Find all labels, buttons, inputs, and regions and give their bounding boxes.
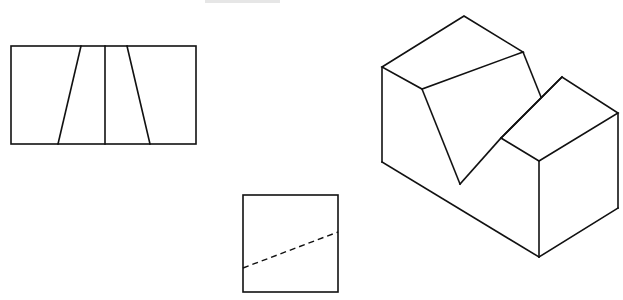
iso-bottom-right-edge xyxy=(539,208,618,257)
iso-right-top-face xyxy=(501,77,618,161)
front-view-right-slant xyxy=(127,46,150,144)
iso-notch-back-edge xyxy=(523,52,541,97)
iso-bottom-front-edge xyxy=(382,162,539,257)
side-view xyxy=(243,195,338,292)
iso-left-top-face xyxy=(382,16,523,89)
iso-notch-left-edge xyxy=(422,89,460,184)
side-view-hidden-line xyxy=(243,232,338,268)
iso-notch-bottom-edge xyxy=(460,138,501,184)
side-view-outline xyxy=(243,195,338,292)
front-view-left-slant xyxy=(58,46,81,144)
drawing-canvas xyxy=(0,0,623,300)
isometric-view xyxy=(382,16,618,257)
front-view-outline xyxy=(11,46,196,144)
front-view xyxy=(11,46,196,144)
